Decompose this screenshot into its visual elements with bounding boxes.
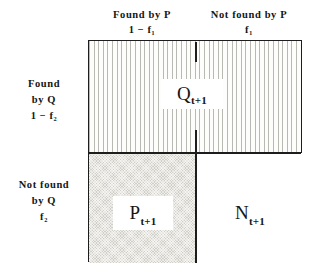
column-header-found-by-p-line2: 1 − f₁ [88, 22, 196, 37]
row-header-found-by-q-line1: Found [1, 76, 87, 92]
cell-label-p-subscript: t+1 [140, 215, 156, 230]
column-header-found-by-p-line1: Found by P [88, 7, 196, 22]
vertical-divider-stub-top [195, 42, 197, 62]
cell-label-q-subscript: t+1 [191, 94, 207, 109]
cell-label-q: Qt+1 [161, 79, 223, 109]
cell-label-n-base: N [235, 202, 249, 224]
row-header-not-found-by-q-line2: by Q [1, 193, 87, 209]
cell-label-n-subscript: t+1 [249, 215, 265, 230]
vertical-divider-bottom [195, 153, 197, 263]
column-header-not-found-by-p-line1: Not found by P [196, 7, 302, 22]
diagram-box: Qt+1 Pt+1 Nt+1 [88, 40, 302, 262]
row-header-not-found-by-q-line1: Not found [1, 177, 87, 193]
cell-label-p: Pt+1 [113, 196, 173, 230]
row-header-found-by-q-line2: by Q [1, 92, 87, 108]
contingency-diagram: Found by P 1 − f₁ Not found by P f₁ Foun… [0, 0, 322, 275]
row-header-not-found-by-q: Not found by Q f₂ [1, 177, 87, 224]
cell-label-q-base: Q [177, 83, 191, 105]
cell-label-n: Nt+1 [219, 196, 281, 230]
column-header-not-found-by-p: Not found by P f₁ [196, 7, 302, 37]
row-header-found-by-q-line3: 1 − f₂ [1, 108, 87, 124]
vertical-divider-stub-bottom [195, 130, 197, 152]
row-header-not-found-by-q-line3: f₂ [1, 209, 87, 225]
row-header-found-by-q: Found by Q 1 − f₂ [1, 76, 87, 123]
column-header-found-by-p: Found by P 1 − f₁ [88, 7, 196, 37]
column-header-not-found-by-p-line2: f₁ [196, 22, 302, 37]
cell-label-p-base: P [130, 202, 141, 224]
